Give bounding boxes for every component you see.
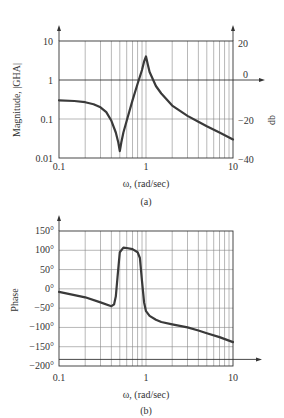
- x-tick-label: 1: [144, 372, 149, 383]
- phase-grid: [59, 231, 233, 366]
- x-axis-label: ω, (rad/sec): [123, 389, 170, 401]
- y-tick-label: −150°: [29, 341, 54, 352]
- x-axis-label: ω, (rad/sec): [123, 178, 170, 190]
- x-tick-label: 0.1: [53, 372, 66, 383]
- y-tick-label: −50°: [34, 302, 54, 313]
- x-tick-label: 10: [228, 161, 238, 172]
- y-axis-arrow-icon: [57, 215, 61, 221]
- y-tick-label: 0.01: [36, 153, 54, 164]
- db-tick-label: −20: [238, 115, 254, 126]
- x-axis-arrow-icon: [256, 357, 262, 361]
- y-tick-label: 0°: [45, 283, 54, 294]
- y-axis-label: Phase: [9, 288, 20, 312]
- x-tick-label: 1: [144, 161, 149, 172]
- y-tick-label: 1: [48, 75, 53, 86]
- y-tick-label: 10: [43, 36, 53, 47]
- db-tick-label: 20: [238, 38, 248, 49]
- y-tick-label: 100°: [35, 244, 54, 255]
- db-axis-arrow-icon: [231, 25, 235, 31]
- figure-caption: (a): [140, 196, 151, 208]
- y-axis-arrow-icon: [57, 25, 61, 31]
- y-tick-label: −100°: [29, 321, 54, 332]
- db-tick-label: 0: [243, 69, 248, 80]
- figure-caption: (b): [140, 405, 152, 417]
- y-tick-label: 150°: [35, 225, 54, 236]
- bode-plot-figure: 10 1 0.1 0.01 20 0 −20 −40 0.1 1 10 ω, (…: [0, 0, 284, 418]
- magnitude-plot: 10 1 0.1 0.01 20 0 −20 −40 0.1 1 10 ω, (…: [11, 25, 277, 208]
- y-axis-label: Magnitude, |GHA|: [11, 63, 22, 137]
- y-tick-label: −200°: [29, 360, 54, 371]
- phase-plot: 150° 100° 50° 0° −50° −100° −150° −200° …: [9, 215, 262, 417]
- x-axis-arrow-icon: [259, 78, 265, 82]
- db-tick-label: −40: [238, 154, 254, 165]
- x-tick-label: 0.1: [53, 161, 66, 172]
- db-axis-label: db: [266, 115, 277, 125]
- x-tick-label: 10: [228, 372, 238, 383]
- y-tick-label: 50°: [40, 264, 54, 275]
- y-tick-label: 0.1: [41, 114, 54, 125]
